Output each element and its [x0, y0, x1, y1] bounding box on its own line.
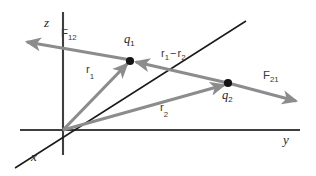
charge-label-q1-sub: 1 [130, 39, 134, 48]
vector-label-r2-sub: 2 [164, 110, 168, 119]
vector-F21 [228, 83, 296, 101]
charge-point-q2 [224, 79, 232, 87]
charge-label-q2-sub: 2 [228, 95, 232, 104]
vector-r2 [63, 85, 224, 130]
vector-label-F12-sub: 12 [68, 33, 77, 42]
vector-label-r1-sub: 1 [90, 72, 94, 81]
vector-label-F12-base: F [61, 27, 68, 39]
vector-label-r1-minus-r2: r1−r2 [161, 48, 185, 59]
axis-label-x: x [31, 150, 37, 163]
diff-first-sub: 1 [165, 53, 169, 62]
physics-vector-diagram: z y x q1 q2 r1 r2 F12 F21 r1−r2 [0, 0, 316, 176]
diff-second-sub: 2 [181, 53, 185, 62]
charge-label-q2: q2 [222, 89, 233, 102]
vector-label-F21: F21 [263, 70, 279, 82]
vector-F12 [27, 42, 131, 60]
charge-point-q1 [126, 57, 134, 65]
vector-label-F21-base: F [263, 69, 270, 81]
vector-r1-minus-r2 [136, 62, 228, 83]
charge-label-q1: q1 [124, 33, 135, 46]
vector-label-F12: F12 [61, 28, 77, 40]
vector-label-r2: r2 [160, 102, 168, 116]
vector-label-F21-sub: 21 [270, 75, 279, 84]
vector-label-r1: r1 [86, 64, 94, 78]
axis-label-z: z [44, 16, 49, 29]
axis-label-y: y [283, 133, 289, 146]
